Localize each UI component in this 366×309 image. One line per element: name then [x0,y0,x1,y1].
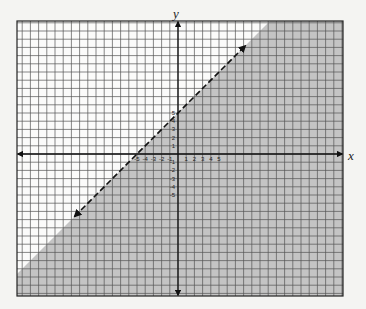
x-tick-label: -4 [143,156,149,162]
y-axis-label: y [171,6,179,21]
x-tick-label: -2 [159,156,165,162]
y-tick-label: -4 [170,184,176,190]
y-tick-label: -5 [170,192,176,198]
inequality-graph: -5-4-3-2-112345 54321-1-2-3-4-5 x y [0,0,366,309]
x-tick-label: -3 [151,156,157,162]
y-tick-label: -2 [170,167,176,173]
y-tick-label: -3 [170,176,176,182]
x-axis-label: x [347,148,354,163]
y-tick-label: -1 [170,159,176,165]
x-tick-label: -5 [134,156,140,162]
